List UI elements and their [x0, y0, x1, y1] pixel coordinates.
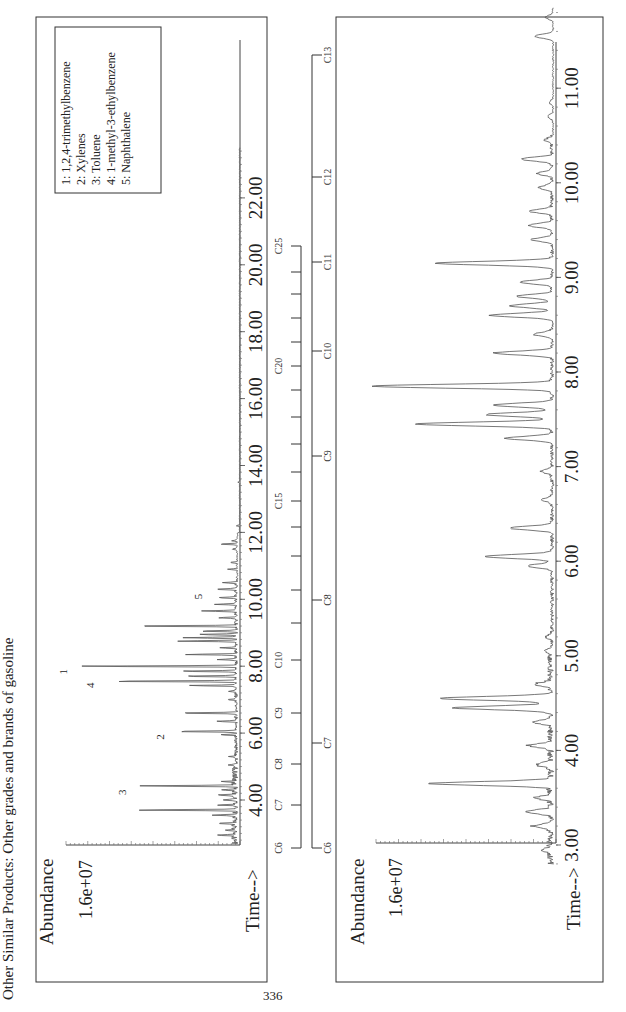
peak-label: 1 [57, 669, 69, 675]
time-tick-label: 8.00 [245, 650, 266, 683]
time-tick-label: 6.00 [245, 716, 266, 749]
time-tick-label: 6.00 [561, 545, 582, 578]
legend: 1: 1,2,4-trimethylbenzene 2: Xylenes 3: … [55, 27, 161, 193]
time-tick-label: 22.00 [245, 177, 266, 220]
time-tick-label: 8.00 [561, 355, 582, 388]
time-tick-label: 10.00 [245, 578, 266, 621]
top-chart-peak-labels: 12345 [57, 593, 204, 795]
page-canvas: Other Similar Products: Other grades and… [0, 0, 626, 1012]
top-chart-ylabel: Abundance [36, 858, 57, 945]
carbon-label: C7 [273, 799, 284, 811]
bottom-chart-carbon-scale: C6C7C8C9C10C11C12C13 [312, 47, 333, 854]
top-chart-y-ticks [66, 841, 240, 845]
time-tick-label: 3.00 [561, 828, 582, 861]
time-tick-label: 5.00 [561, 639, 582, 672]
bottom-chart-trace [372, 8, 554, 864]
top-chart-xlabel: Time--> [242, 869, 263, 932]
bottom-chart: Abundance 1.6e+07 Time--> 3.004.005.006.… [336, 8, 603, 982]
time-tick-label: 4.00 [561, 734, 582, 767]
carbon-label: C25 [273, 238, 284, 255]
carbon-label: C7 [322, 737, 333, 749]
peak-label: 4 [84, 682, 96, 688]
carbon-label: C11 [322, 254, 333, 270]
top-chart-ytick-label: 1.6e+07 [76, 860, 96, 919]
time-tick-label: 20.00 [245, 243, 266, 286]
carbon-label: C8 [273, 758, 284, 770]
peak-label: 5 [192, 593, 204, 599]
carbon-label: C6 [273, 842, 284, 854]
page-number: 336 [263, 988, 283, 1003]
top-chart-carbon-scale: C6C7C8C9C10C15C20C25 [273, 238, 301, 854]
legend-item-1: 1: 1,2,4-trimethylbenzene [59, 61, 73, 185]
time-tick-label: 4.00 [245, 783, 266, 816]
carbon-label: C10 [273, 652, 284, 669]
peak-label: 3 [116, 789, 128, 795]
carbon-label: C15 [273, 493, 284, 510]
bottom-chart-y-ticks [376, 839, 556, 843]
time-tick-label: 18.00 [245, 310, 266, 353]
bottom-chart-time-ticks: 3.004.005.006.007.008.009.0010.0011.00 [556, 13, 582, 864]
bottom-chart-xlabel: Time--> [563, 867, 584, 930]
carbon-label: C9 [273, 707, 284, 719]
carbon-label: C9 [322, 450, 333, 462]
time-tick-label: 9.00 [561, 261, 582, 294]
bottom-chart-ytick-label: 1.6e+07 [386, 858, 406, 917]
carbon-label: C12 [322, 169, 333, 186]
time-tick-label: 16.00 [245, 377, 266, 420]
carbon-label: C10 [322, 343, 333, 360]
legend-item-2: 2: Xylenes [74, 133, 88, 185]
top-chart: Abundance 1.6e+07 Time--> 4.006.008.0010… [36, 17, 267, 982]
legend-item-4: 4: 1-methyl-3-ethylbenzene [104, 52, 118, 185]
top-chart-time-ticks: 4.006.008.0010.0012.0014.0016.0018.0020.… [240, 151, 266, 840]
bottom-chart-ylabel: Abundance [347, 858, 368, 945]
carbon-label: C13 [322, 47, 333, 64]
time-tick-label: 14.00 [245, 444, 266, 487]
peak-label: 2 [154, 734, 166, 740]
time-tick-label: 10.00 [561, 161, 582, 204]
carbon-label: C8 [322, 594, 333, 606]
legend-item-5: 5: Naphthalene [119, 112, 133, 185]
time-tick-label: 7.00 [561, 450, 582, 483]
carbon-label: C20 [273, 358, 284, 375]
carbon-label: C6 [322, 842, 333, 854]
legend-item-3: 3: Toluene [89, 134, 103, 185]
time-tick-label: 11.00 [561, 67, 582, 109]
page-heading: Other Similar Products: Other grades and… [0, 637, 16, 1000]
time-tick-label: 12.00 [245, 511, 266, 554]
